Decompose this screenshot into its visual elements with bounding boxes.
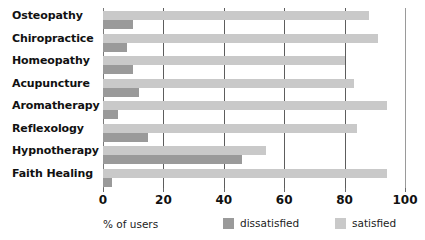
bar-satisfied xyxy=(103,56,345,65)
legend-swatch-icon xyxy=(335,218,346,229)
axis-tick-label: 0 xyxy=(99,193,107,207)
bar-group xyxy=(103,34,405,52)
bar-satisfied xyxy=(103,146,266,155)
legend-label: satisfied xyxy=(352,217,396,229)
category-label: Osteopathy xyxy=(0,10,94,22)
category-label: Hypnotherapy xyxy=(0,145,94,157)
axis-tick-mark xyxy=(284,188,285,192)
axis-tick-mark xyxy=(103,188,104,192)
bar-group xyxy=(103,79,405,97)
bar-satisfied xyxy=(103,169,387,178)
axis-tick-mark xyxy=(345,188,346,192)
legend-swatch-icon xyxy=(223,218,234,229)
bar-group xyxy=(103,11,405,29)
category-label: Homeopathy xyxy=(0,55,94,67)
category-label: Aromatherapy xyxy=(0,100,94,112)
legend-label: dissatisfied xyxy=(240,217,299,229)
x-axis-caption: % of users xyxy=(103,218,158,230)
axis-tick-label: 20 xyxy=(155,193,172,207)
axis-tick-label: 60 xyxy=(276,193,293,207)
chart-legend: % of users dissatisfiedsatisfied xyxy=(103,216,425,234)
bar-group xyxy=(103,146,405,164)
bar-group xyxy=(103,101,405,119)
bar-dissatisfied xyxy=(103,133,148,142)
bar-satisfied xyxy=(103,34,378,43)
bar-dissatisfied xyxy=(103,155,242,164)
bar-dissatisfied xyxy=(103,178,112,187)
bar-dissatisfied xyxy=(103,110,118,119)
legend-entry-satisfied[interactable]: satisfied xyxy=(335,217,396,229)
category-label: Acupuncture xyxy=(0,78,94,90)
category-label: Reflexology xyxy=(0,123,94,135)
legend-entry-dissatisfied[interactable]: dissatisfied xyxy=(223,217,299,229)
bar-group xyxy=(103,169,405,187)
axis-tick-label: 80 xyxy=(336,193,353,207)
bar-dissatisfied xyxy=(103,43,127,52)
bar-dissatisfied xyxy=(103,20,133,29)
bar-dissatisfied xyxy=(103,65,133,74)
category-label: Chiropractice xyxy=(0,33,94,45)
axis-tick-mark xyxy=(405,188,406,192)
axis-tick-label: 100 xyxy=(392,193,417,207)
bar-chart: OsteopathyChiropracticeHomeopathyAcupunc… xyxy=(0,0,425,240)
value-axis: 020406080100 xyxy=(103,188,405,210)
axis-tick-mark xyxy=(163,188,164,192)
bar-satisfied xyxy=(103,124,357,133)
axis-tick-label: 40 xyxy=(215,193,232,207)
bar-group xyxy=(103,56,405,74)
gridline xyxy=(405,8,406,188)
axis-tick-mark xyxy=(224,188,225,192)
bar-satisfied xyxy=(103,101,387,110)
category-label: Faith Healing xyxy=(0,168,94,180)
bar-group xyxy=(103,124,405,142)
bar-satisfied xyxy=(103,79,354,88)
bar-dissatisfied xyxy=(103,88,139,97)
plot-area xyxy=(103,8,405,188)
category-axis: OsteopathyChiropracticeHomeopathyAcupunc… xyxy=(0,8,97,188)
bar-satisfied xyxy=(103,11,369,20)
